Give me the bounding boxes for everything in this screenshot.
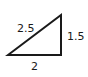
vertical-leg-label: 1.5 [67,30,85,43]
hypotenuse-label: 2.5 [17,22,35,35]
right-triangle [8,15,61,55]
base-label: 2 [31,60,38,73]
triangle-diagram: 2.5 1.5 2 [0,0,88,77]
